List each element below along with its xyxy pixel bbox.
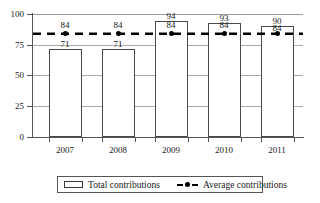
bar-2011 bbox=[261, 26, 294, 137]
xtick-mark-8 bbox=[241, 138, 242, 142]
average-marker-2009 bbox=[169, 31, 174, 36]
ytick-label-25: 25 bbox=[15, 102, 24, 111]
dashed-line-marker-icon bbox=[177, 181, 198, 188]
xtick-mark-3 bbox=[102, 138, 103, 142]
xtick-mark-1 bbox=[49, 138, 50, 142]
average-value-2010: 84 bbox=[204, 21, 244, 30]
xtick-mark-5 bbox=[155, 138, 156, 142]
bar-2008 bbox=[102, 49, 135, 137]
xtick-mark-10 bbox=[294, 138, 295, 142]
bar-value-2008: 71 bbox=[98, 40, 138, 49]
average-marker-2008 bbox=[116, 31, 121, 36]
average-value-2011: 84 bbox=[257, 24, 297, 33]
average-value-2007: 84 bbox=[45, 21, 85, 30]
bar-2010 bbox=[208, 23, 241, 137]
xtick-label-2008: 2008 bbox=[98, 145, 138, 155]
xtick-label-2009: 2009 bbox=[151, 145, 191, 155]
bar-value-2007: 71 bbox=[45, 40, 85, 49]
average-marker-2010 bbox=[222, 31, 227, 36]
x-axis-line bbox=[32, 137, 304, 138]
chart-legend: Total contributions Average contribution… bbox=[57, 176, 263, 193]
ytick-label-0: 0 bbox=[20, 133, 25, 142]
contributions-chart: 100 75 50 25 0 2007 2008 2009 2010 2011 … bbox=[0, 0, 320, 203]
legend-item-total: Total contributions bbox=[64, 180, 160, 190]
xtick-mark-2 bbox=[82, 138, 83, 142]
average-value-2009: 84 bbox=[151, 21, 191, 30]
legend-label-total: Total contributions bbox=[88, 180, 160, 190]
ytick-label-50: 50 bbox=[15, 71, 24, 80]
ytick-mark-100 bbox=[27, 14, 32, 15]
ytick-mark-25 bbox=[27, 106, 32, 107]
bar-swatch-icon bbox=[64, 181, 83, 188]
xtick-label-2007: 2007 bbox=[45, 145, 85, 155]
xtick-mark-6 bbox=[188, 138, 189, 142]
xtick-mark-4 bbox=[135, 138, 136, 142]
xtick-mark-7 bbox=[208, 138, 209, 142]
y-axis-line bbox=[32, 13, 33, 138]
ytick-mark-75 bbox=[27, 45, 32, 46]
xtick-label-2010: 2010 bbox=[204, 145, 244, 155]
average-value-2008: 84 bbox=[98, 21, 138, 30]
legend-label-average: Average contributions bbox=[203, 180, 287, 190]
xtick-label-2011: 2011 bbox=[257, 145, 297, 155]
bar-2009 bbox=[155, 21, 188, 137]
xtick-mark-9 bbox=[261, 138, 262, 142]
bar-2007 bbox=[49, 49, 82, 137]
legend-item-average: Average contributions bbox=[177, 180, 287, 190]
ytick-mark-50 bbox=[27, 75, 32, 76]
average-marker-2007 bbox=[63, 31, 68, 36]
ytick-label-75: 75 bbox=[15, 41, 24, 50]
ytick-mark-0 bbox=[27, 137, 32, 138]
ytick-label-100: 100 bbox=[11, 10, 25, 19]
